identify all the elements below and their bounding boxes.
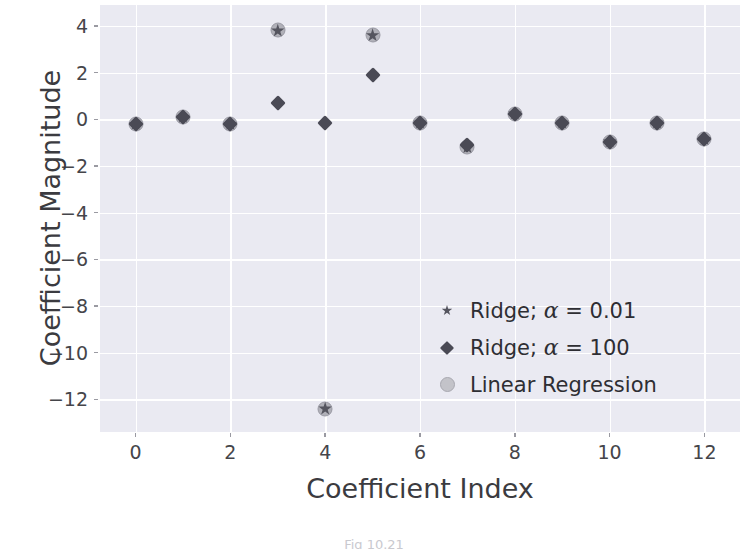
marker-ridge-alpha-0-01: [318, 402, 332, 416]
gridline-vertical: [230, 5, 231, 432]
marker-ridge-alpha-100: [604, 136, 615, 147]
marker-ridge-alpha-100: [320, 117, 331, 128]
x-tick-label: 2: [224, 441, 236, 463]
y-axis-title-holder: Coefficient Magnitude: [0, 0, 40, 549]
marker-ridge-alpha-0-01: [366, 28, 380, 42]
marker-ridge-alpha-100: [462, 140, 473, 151]
marker-ridge-alpha-100: [557, 117, 568, 128]
star-icon: [442, 305, 453, 316]
diamond-icon: [440, 340, 454, 354]
x-tick-label: 8: [509, 441, 521, 463]
y-tick-mark: [94, 212, 98, 214]
x-tick-mark: [324, 433, 326, 437]
star-icon: [366, 28, 380, 42]
diamond-icon: [649, 115, 665, 131]
legend-marker: [424, 343, 470, 353]
gridline-vertical: [420, 5, 421, 432]
figure-caption: Fig 10.21: [0, 537, 748, 549]
x-tick-label: 6: [414, 441, 426, 463]
legend-label: Linear Regression: [470, 373, 657, 397]
diamond-icon: [460, 137, 476, 153]
y-tick-mark: [94, 305, 98, 307]
marker-ridge-alpha-100: [699, 134, 710, 145]
y-tick-mark: [94, 259, 98, 261]
star-icon: [271, 24, 285, 38]
marker-ridge-alpha-100: [652, 117, 663, 128]
diamond-icon: [175, 109, 191, 125]
x-axis-title: Coefficient Index: [100, 473, 740, 504]
diamond-icon: [507, 106, 523, 122]
diamond-icon: [128, 116, 144, 132]
y-tick-mark: [94, 119, 98, 121]
x-tick-mark: [230, 433, 232, 437]
diamond-icon: [697, 131, 713, 147]
alpha-symbol: α: [544, 335, 559, 360]
x-tick-label: 12: [692, 441, 716, 463]
alpha-symbol: α: [544, 298, 559, 323]
legend-marker: [424, 377, 470, 392]
x-tick-mark: [609, 433, 611, 437]
legend-item: Ridge; α = 100: [424, 329, 724, 366]
marker-ridge-alpha-100: [177, 112, 188, 123]
y-tick-mark: [94, 72, 98, 74]
marker-ridge-alpha-100: [225, 119, 236, 130]
y-tick-mark: [94, 25, 98, 27]
y-tick-mark: [94, 165, 98, 167]
marker-ridge-alpha-0-01: [271, 24, 285, 38]
legend-label: Ridge; α = 0.01: [470, 298, 636, 323]
diamond-icon: [223, 116, 239, 132]
marker-ridge-alpha-100: [272, 98, 283, 109]
marker-ridge-alpha-100: [415, 117, 426, 128]
diamond-icon: [317, 115, 333, 131]
x-tick-label: 0: [130, 441, 142, 463]
x-tick-mark: [135, 433, 137, 437]
legend-item: Linear Regression: [424, 366, 724, 403]
legend: Ridge; α = 0.01Ridge; α = 100Linear Regr…: [424, 292, 724, 403]
y-tick-mark: [94, 399, 98, 401]
diamond-icon: [412, 115, 428, 131]
x-tick-mark: [514, 433, 516, 437]
legend-item: Ridge; α = 0.01: [424, 292, 724, 329]
star-icon: [318, 402, 332, 416]
marker-ridge-alpha-100: [130, 119, 141, 130]
x-tick-label: 4: [319, 441, 331, 463]
x-tick-mark: [704, 433, 706, 437]
x-tick-mark: [419, 433, 421, 437]
y-tick-mark: [94, 352, 98, 354]
diamond-icon: [365, 67, 381, 83]
diamond-icon: [270, 95, 286, 111]
diamond-icon: [554, 115, 570, 131]
circle-icon: [440, 377, 455, 392]
legend-marker: [424, 305, 470, 316]
gridline-vertical: [325, 5, 326, 432]
marker-ridge-alpha-100: [367, 70, 378, 81]
x-tick-label: 10: [598, 441, 622, 463]
diamond-icon: [602, 134, 618, 150]
y-axis-title: Coefficient Magnitude: [35, 18, 66, 418]
figure-canvas: 420−2−4−6−8−10−12 024681012 Coefficient …: [0, 0, 748, 549]
legend-label: Ridge; α = 100: [470, 335, 630, 360]
marker-ridge-alpha-100: [509, 108, 520, 119]
gridline-vertical: [136, 5, 137, 432]
